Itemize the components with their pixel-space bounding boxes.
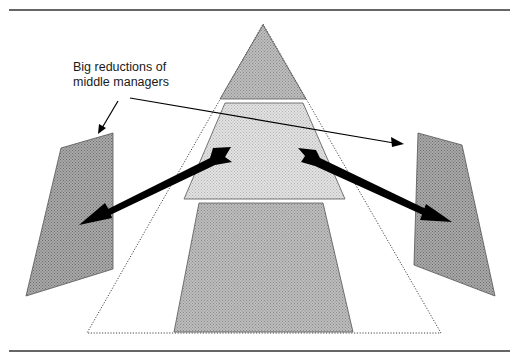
pyramid-diagram bbox=[0, 0, 531, 361]
middle-tier bbox=[184, 103, 345, 199]
bottom-tier bbox=[174, 203, 353, 332]
top-tier bbox=[220, 25, 306, 99]
annotation-line-1: Big reductions of bbox=[73, 60, 169, 75]
annotation-pointer-left bbox=[98, 101, 118, 134]
figure-canvas: Big reductions of middle managers bbox=[0, 0, 531, 361]
annotation-label: Big reductions of middle managers bbox=[73, 60, 169, 90]
annotation-line-2: middle managers bbox=[73, 75, 169, 90]
